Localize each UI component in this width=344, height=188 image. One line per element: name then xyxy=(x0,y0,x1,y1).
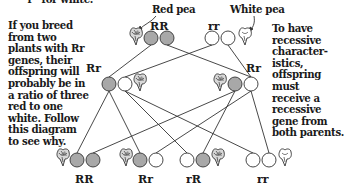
red-flower-icon xyxy=(120,149,132,166)
white-flower-icon xyxy=(279,149,291,166)
red-flower-icon xyxy=(57,149,69,166)
offspring-rR xyxy=(180,149,224,167)
dominant-gene-circle xyxy=(86,153,100,167)
recessive-gene-circle xyxy=(244,77,258,91)
dominant-gene-circle xyxy=(70,153,84,167)
grandparent-red xyxy=(130,28,174,45)
red-flower-icon xyxy=(134,74,146,91)
offspring-Rr xyxy=(120,149,163,167)
red-flower-icon xyxy=(130,28,142,45)
dominant-gene-circle xyxy=(144,31,158,45)
dominant-gene-circle xyxy=(102,77,116,91)
grandparent-white xyxy=(205,28,251,45)
recessive-gene-circle xyxy=(246,153,260,167)
parent-left xyxy=(102,74,146,91)
red-flower-icon xyxy=(212,149,224,166)
red-flower-icon xyxy=(214,74,226,91)
offspring-lines xyxy=(77,91,269,153)
dominant-gene-circle xyxy=(160,31,174,45)
recessive-gene-circle xyxy=(149,153,163,167)
recessive-gene-circle xyxy=(180,153,194,167)
white-flower-icon xyxy=(239,28,251,45)
label-arrows xyxy=(139,16,254,31)
grandparent-lines xyxy=(109,45,251,77)
dominant-gene-circle xyxy=(196,153,210,167)
parent-right xyxy=(214,74,258,91)
recessive-gene-circle xyxy=(205,31,219,45)
dominant-gene-circle xyxy=(228,77,242,91)
inheritance-diagram xyxy=(0,0,344,188)
recessive-gene-circle xyxy=(262,153,276,167)
recessive-gene-circle xyxy=(221,31,235,45)
dominant-gene-circle xyxy=(133,153,147,167)
offspring-RR xyxy=(57,149,100,167)
recessive-gene-circle xyxy=(118,77,132,91)
